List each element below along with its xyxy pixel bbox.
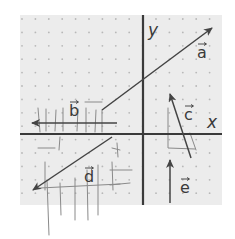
vector-a-label: a [197,43,207,62]
vector-diagram: x y abcde [0,0,235,239]
diagram-canvas: x y abcde [0,0,235,239]
vector-c-label: c [184,105,193,124]
vector-d-label: d [84,167,94,186]
vector-b-label: b [69,101,79,120]
x-axis-label: x [206,112,218,132]
y-axis-label: y [147,20,159,40]
vector-e-label: e [180,178,190,197]
